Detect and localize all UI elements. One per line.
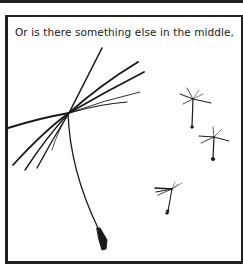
- small-dandelion-seed: [180, 88, 211, 128]
- small-dandelion-seed: [199, 127, 229, 161]
- dandelion-illustration: [0, 0, 243, 265]
- large-dandelion-seed: [8, 48, 144, 250]
- small-dandelion-seed: [155, 182, 182, 214]
